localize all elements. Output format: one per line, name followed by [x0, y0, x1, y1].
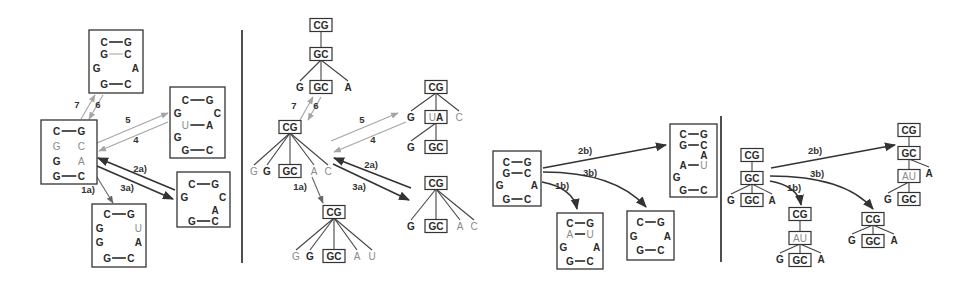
base-right: C: [78, 171, 85, 182]
unpaired-base: G: [250, 166, 258, 177]
base-left: C: [53, 126, 60, 137]
transition-label: 3b): [810, 168, 824, 179]
transition-label: 1b): [787, 182, 801, 193]
base-left: G: [53, 171, 61, 182]
pair-node: AU: [898, 170, 920, 183]
tree-edge: [888, 182, 909, 193]
pair-node-label: CG: [314, 20, 329, 31]
pair-node-label: CG: [866, 214, 881, 225]
base-left: G: [496, 180, 504, 191]
base-left: A: [680, 160, 687, 171]
base-right: C: [124, 49, 131, 60]
transition-label: 5: [125, 114, 131, 125]
unpaired-base: A: [354, 251, 361, 262]
base-right: G: [127, 209, 135, 220]
pair-node: CG: [789, 208, 811, 221]
pair-node-label: CG: [327, 207, 342, 218]
tree-edge: [290, 133, 314, 165]
base-right: C: [214, 108, 221, 119]
transition-label: 2a): [133, 163, 147, 174]
pair-node-label: GC: [314, 82, 329, 93]
base-right: U: [587, 229, 594, 240]
tree-edge: [752, 184, 772, 194]
base-left: G: [100, 79, 108, 90]
base-left: G: [103, 253, 111, 264]
pair-node: CG: [323, 206, 345, 219]
base-left: A: [567, 229, 574, 240]
pair-node-label: GC: [902, 148, 917, 159]
tree-edge: [310, 218, 334, 250]
base-left: C: [101, 37, 108, 48]
pair-node: GC: [789, 254, 811, 267]
base-left: G: [188, 216, 196, 227]
transition-label: 2b): [808, 145, 822, 156]
base-right: G: [206, 95, 214, 106]
tree-edge: [300, 60, 321, 81]
transition-arrow: [770, 176, 873, 209]
unpaired-base: C: [455, 112, 462, 123]
tree-edge: [873, 225, 894, 234]
unpaired-base: G: [776, 254, 784, 265]
structure-box: CGGCGAGC: [89, 30, 143, 93]
base-right: G: [586, 218, 594, 229]
base-right: C: [657, 245, 664, 256]
pair-node: GC: [323, 250, 345, 263]
base-left: G: [182, 145, 190, 156]
unpaired-base: G: [263, 166, 271, 177]
base-left: G: [636, 245, 644, 256]
pair-node: GC: [310, 48, 332, 61]
unpaired-base: G: [884, 194, 892, 205]
base-right: A: [212, 205, 219, 216]
pair-node-label: CG: [283, 122, 298, 133]
structure-box: CGGUGAGC: [92, 204, 146, 267]
transition-label: 3a): [120, 182, 134, 193]
base-right: C: [212, 216, 219, 227]
pair-node: CG: [425, 81, 447, 94]
tree-edge: [254, 133, 290, 165]
base-left: C: [637, 217, 644, 228]
tree-edge: [267, 133, 290, 165]
structure-box: CGGAGC: [627, 211, 674, 260]
pair-node-label: GC: [745, 195, 760, 206]
unpaired-base: A: [311, 166, 318, 177]
base-left: C: [182, 95, 189, 106]
base-right: A: [593, 242, 600, 253]
base-left: C: [503, 157, 510, 168]
base-right: A: [78, 156, 85, 167]
pair-node-label: GC: [314, 49, 329, 60]
base-right: G: [124, 37, 132, 48]
transition-label: 4: [133, 134, 139, 145]
unpaired-base: G: [292, 251, 300, 262]
unpaired-base: A: [925, 168, 932, 179]
unpaired-base: C: [470, 221, 477, 232]
base-left: G: [560, 242, 568, 253]
pair-node-label: GC: [866, 236, 881, 247]
pair-node: CG: [898, 124, 920, 137]
base-right: G: [657, 217, 665, 228]
pair-node-label: CG: [429, 178, 444, 189]
base-left: G: [53, 141, 61, 152]
pair-node: CG: [741, 149, 763, 162]
pair-node: UA: [425, 111, 447, 124]
base-left: G: [679, 185, 687, 196]
structure-box: CGGCAGC: [177, 172, 230, 227]
tree-edge: [436, 189, 460, 220]
base-right: C: [700, 185, 707, 196]
tree-edge: [800, 244, 821, 253]
base-right: A: [664, 231, 671, 242]
base-left: G: [566, 256, 574, 267]
pair-node: GC: [425, 220, 447, 233]
pair-node-label: GC: [745, 173, 760, 184]
base-left: G: [174, 132, 182, 143]
transition-arrow: [771, 145, 895, 168]
transition-arrow: [543, 145, 666, 168]
transition-label: 1a): [293, 181, 307, 192]
structure-frame: [170, 87, 225, 158]
base-right: C: [206, 145, 213, 156]
pair-node-label: CG: [793, 209, 808, 220]
tree-edge: [731, 184, 752, 194]
base-left: C: [680, 129, 687, 140]
base-right: C: [78, 141, 85, 152]
structure-frame: [41, 120, 97, 184]
base-left: U: [182, 120, 189, 131]
